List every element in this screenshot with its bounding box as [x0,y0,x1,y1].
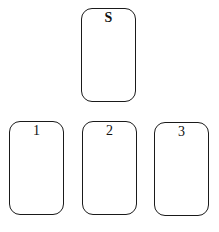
card-1: 1 [9,121,64,215]
card-3: 3 [154,122,209,216]
card-2: 2 [82,121,137,215]
card-3-label: 3 [155,125,208,139]
card-s-label: S [82,11,135,25]
card-s: S [81,8,136,102]
card-1-label: 1 [10,124,63,138]
card-2-label: 2 [83,124,136,138]
